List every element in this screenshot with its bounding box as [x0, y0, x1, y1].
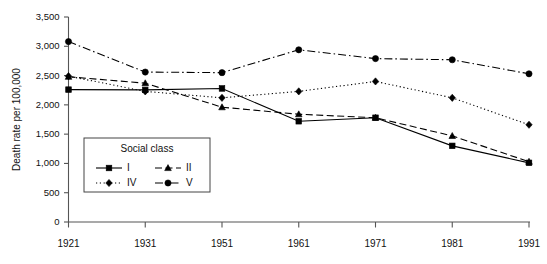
legend-title: Social class — [121, 143, 174, 154]
y-axis-tick-label: 0 — [54, 216, 59, 227]
legend-label-V: V — [186, 177, 193, 188]
x-axis-tick-label: 1961 — [288, 238, 311, 249]
y-axis-title: Death rate per 100,000 — [11, 68, 22, 171]
legend-label-IV: IV — [127, 177, 137, 188]
data-point-marker-IV — [219, 94, 225, 101]
x-axis-tick-label: 1951 — [211, 238, 234, 249]
data-point-marker-I — [449, 143, 455, 149]
x-axis-tick-label: 1971 — [364, 238, 387, 249]
data-point-marker-II — [219, 104, 226, 110]
data-point-marker-V — [165, 180, 171, 186]
y-axis-tick-label: 2,500 — [36, 70, 60, 81]
data-point-marker-V — [296, 47, 302, 53]
x-axis-tick-label: 1921 — [57, 238, 80, 249]
data-point-marker-I — [296, 118, 302, 124]
x-axis-tick-label: 1931 — [134, 238, 157, 249]
series-V — [65, 39, 532, 77]
legend-label-I: I — [127, 162, 130, 173]
data-point-marker-II — [449, 133, 456, 139]
data-point-marker-I — [106, 165, 112, 171]
data-point-marker-V — [142, 69, 148, 75]
chart-legend: Social classIIIIVV — [84, 138, 210, 192]
data-point-marker-V — [449, 57, 455, 63]
legend-label-II: II — [186, 162, 192, 173]
data-point-marker-IV — [526, 121, 532, 128]
data-point-marker-V — [219, 70, 225, 76]
chart-axes: 05001,0001,5002,0002,5003,0003,500192119… — [11, 11, 541, 249]
data-point-marker-IV — [372, 78, 378, 85]
data-point-marker-I — [219, 86, 225, 92]
y-axis-tick-label: 2,000 — [36, 99, 60, 110]
data-point-marker-V — [65, 39, 71, 45]
y-axis-tick-label: 3,500 — [36, 11, 60, 22]
x-axis-tick-label: 1981 — [441, 238, 464, 249]
data-point-marker-IV — [296, 88, 302, 95]
line-chart: 05001,0001,5002,0002,5003,0003,500192119… — [0, 0, 547, 264]
x-axis-tick-label: 1991 — [518, 238, 541, 249]
y-axis-tick-label: 1,500 — [36, 128, 60, 139]
data-point-marker-V — [526, 71, 532, 77]
chart-figure: 05001,0001,5002,0002,5003,0003,500192119… — [0, 0, 547, 264]
y-axis-tick-label: 3,000 — [36, 40, 60, 51]
data-point-marker-V — [372, 55, 378, 61]
y-axis-tick-label: 500 — [44, 187, 60, 198]
series-line-IV — [69, 76, 530, 125]
y-axis-tick-label: 1,000 — [36, 157, 60, 168]
data-point-marker-I — [66, 87, 72, 93]
data-point-marker-IV — [449, 94, 455, 101]
